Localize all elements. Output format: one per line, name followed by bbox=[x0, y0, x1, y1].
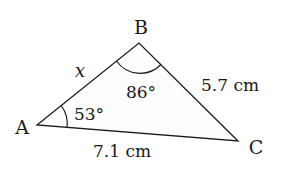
vertex-label-b: B bbox=[134, 16, 148, 38]
side-label-ab: x bbox=[75, 60, 85, 81]
angle-label-b: 86° bbox=[126, 82, 156, 102]
vertex-label-a: A bbox=[14, 116, 29, 138]
vertex-label-c: C bbox=[249, 136, 264, 158]
angle-label-a: 53° bbox=[74, 104, 104, 124]
triangle-diagram: B A C x 5.7 cm 7.1 cm 86° 53° bbox=[0, 0, 283, 182]
side-label-bc: 5.7 cm bbox=[201, 75, 259, 95]
side-label-ac: 7.1 cm bbox=[93, 141, 151, 161]
